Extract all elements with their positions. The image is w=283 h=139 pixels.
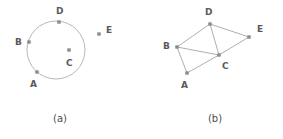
- node-marker-d[interactable]: [208, 22, 211, 25]
- panel-b: ABCDE(b): [163, 7, 263, 124]
- node-label-a: A: [30, 79, 37, 89]
- figure-canvas: ABCDE(a)ABCDE(b): [0, 0, 283, 139]
- node-label-b: B: [163, 41, 170, 51]
- node-marker-b[interactable]: [27, 40, 30, 43]
- graph-edge-b-d: [177, 24, 210, 47]
- node-marker-c[interactable]: [217, 53, 220, 56]
- graph-edge-d-e: [210, 24, 249, 37]
- figure-container: ABCDE(a)ABCDE(b): [0, 0, 283, 139]
- node-marker-d[interactable]: [57, 20, 60, 23]
- graph-edge-c-d: [210, 24, 219, 55]
- graph-edge-b-c: [177, 47, 219, 55]
- node-label-c: C: [66, 58, 73, 68]
- graph-edge-b-a: [177, 47, 187, 73]
- panel-b-caption: (b): [208, 113, 222, 124]
- node-marker-e[interactable]: [97, 32, 100, 35]
- node-marker-a[interactable]: [35, 70, 38, 73]
- panel-a-caption: (a): [53, 113, 67, 124]
- node-marker-e[interactable]: [247, 35, 250, 38]
- node-marker-a[interactable]: [185, 71, 188, 74]
- node-label-c: C: [222, 61, 229, 71]
- node-marker-b[interactable]: [175, 45, 178, 48]
- graph-edge-a-c: [187, 55, 219, 73]
- node-label-a: A: [181, 80, 188, 90]
- node-label-e: E: [257, 24, 263, 34]
- node-label-d: D: [205, 7, 212, 17]
- node-label-e: E: [106, 25, 112, 35]
- node-marker-c[interactable]: [67, 48, 70, 51]
- node-label-b: B: [15, 37, 22, 47]
- graph-edge-c-e: [219, 37, 249, 55]
- node-label-d: D: [56, 6, 63, 16]
- panel-a: ABCDE(a): [15, 6, 112, 124]
